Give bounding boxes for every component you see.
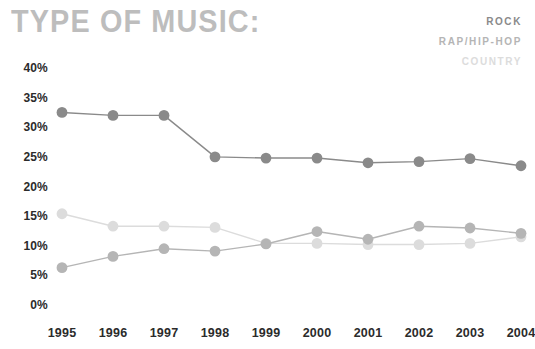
x-axis-tick-label: 2004 [507,326,535,340]
y-axis-tick-label: 35% [0,91,48,105]
series-country [57,208,527,250]
data-point [159,110,170,121]
data-point [57,262,68,273]
data-point [57,107,68,118]
data-point [159,243,170,254]
data-point [465,223,476,234]
y-axis-tick-label: 40% [0,61,48,75]
data-point [414,239,425,250]
data-point [210,151,221,162]
y-axis: 0%5%10%15%20%25%30%35%40% [0,0,48,349]
series-line [62,226,521,267]
data-point [516,228,527,239]
data-point [465,238,476,249]
y-axis-tick-label: 20% [0,180,48,194]
y-axis-tick-label: 5% [0,268,48,282]
x-axis-tick-label: 2001 [354,326,383,340]
data-point [108,251,119,262]
data-point [159,221,170,232]
x-axis: 1995199619971998199920002001200220032004 [0,326,533,346]
y-axis-tick-label: 25% [0,150,48,164]
data-point [261,153,272,164]
x-axis-tick-label: 2002 [405,326,434,340]
x-axis-tick-label: 1999 [252,326,281,340]
x-axis-tick-label: 2003 [456,326,485,340]
data-point [261,239,272,250]
data-point [312,238,323,249]
data-point [108,110,119,121]
y-axis-tick-label: 15% [0,209,48,223]
y-axis-tick-label: 10% [0,239,48,253]
data-point [414,156,425,167]
data-point [465,153,476,164]
data-point [210,246,221,257]
x-axis-tick-label: 1996 [99,326,128,340]
data-point [108,221,119,232]
y-axis-tick-label: 0% [0,298,48,312]
data-point [414,221,425,232]
x-axis-tick-label: 1998 [201,326,230,340]
data-point [57,208,68,219]
x-axis-tick-label: 1995 [48,326,77,340]
x-axis-tick-label: 1997 [150,326,179,340]
x-axis-tick-label: 2000 [303,326,332,340]
data-point [312,226,323,237]
series-line [62,112,521,165]
data-point [210,222,221,233]
data-point [363,157,374,168]
series-rap-hip-hop [57,221,527,273]
y-axis-tick-label: 30% [0,120,48,134]
data-point [312,153,323,164]
series-rock [57,107,527,171]
series-line [62,214,521,245]
data-point [363,234,374,245]
data-point [516,160,527,171]
